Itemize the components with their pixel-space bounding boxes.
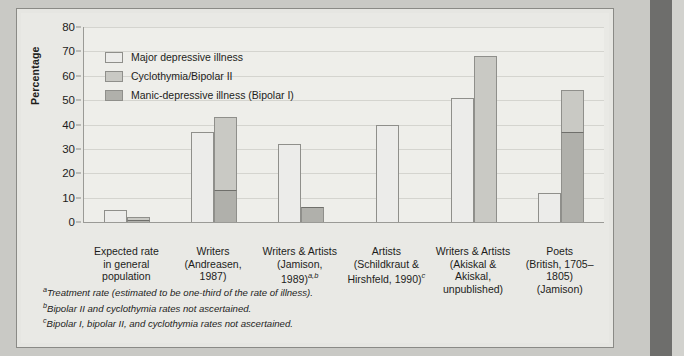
figure-frame: Percentage 01020304050607080 Major depre… xyxy=(16,8,614,348)
y-axis-tick-label: 60 xyxy=(62,70,75,82)
legend-item: Manic-depressive illness (Bipolar I) xyxy=(105,89,294,101)
footnote-marker: a,b xyxy=(308,271,318,280)
bar-major-depressive-illness xyxy=(538,193,561,222)
legend-item-label: Manic-depressive illness (Bipolar I) xyxy=(131,89,294,101)
y-axis-tick-label: 40 xyxy=(62,119,75,131)
x-axis-label-line: (Jamison, xyxy=(257,258,342,271)
legend-item: Cyclothymia/Bipolar II xyxy=(105,70,294,82)
footnote-text: Bipolar I, bipolar II, and cyclothymia r… xyxy=(47,319,293,330)
figure-inner-panel: Percentage 01020304050607080 Major depre… xyxy=(21,13,609,343)
footnote-text: Treatment rate (estimated to be one-thir… xyxy=(47,287,313,298)
y-axis-tick-label: 30 xyxy=(62,143,75,155)
y-axis-tick-label: 20 xyxy=(62,167,75,179)
bar-manic-depressive-illness-bipolar-i xyxy=(301,207,324,222)
y-axis-tick-label: 80 xyxy=(62,21,75,33)
x-axis-label-line: in general xyxy=(84,258,169,271)
page-edge-shadow-band xyxy=(650,0,672,356)
y-axis-tick-label: 0 xyxy=(69,216,75,228)
y-axis-tick-mark xyxy=(76,148,81,149)
y-axis-tick-mark xyxy=(76,173,81,174)
footnote-line: aTreatment rate (estimated to be one-thi… xyxy=(43,284,583,300)
bar-cyclothymia-bipolar-ii xyxy=(561,90,584,222)
bar-cyclothymia-bipolar-ii xyxy=(474,56,497,222)
y-axis-tick-mark xyxy=(76,27,81,28)
x-axis-label-line: Akiskal, xyxy=(431,270,516,283)
y-axis-tick-mark xyxy=(76,51,81,52)
legend-item-label: Major depressive illness xyxy=(131,51,243,63)
y-axis-tick-mark xyxy=(76,124,81,125)
x-axis-label-line: population xyxy=(84,270,169,283)
bar-cyclothymia-bipolar-ii xyxy=(301,207,324,222)
y-axis-tick-mark xyxy=(76,100,81,101)
y-axis-tick-mark xyxy=(76,197,81,198)
x-axis-label-line: Poets xyxy=(517,245,602,258)
bar-manic-depressive-illness-bipolar-i xyxy=(561,132,584,222)
legend-swatch-icon xyxy=(105,52,123,63)
x-axis-label-line: Writers xyxy=(171,245,256,258)
footnote-line: cBipolar I, bipolar II, and cyclothymia … xyxy=(43,315,583,331)
y-axis-label: Percentage xyxy=(29,46,41,105)
bar-cyclothymia-bipolar-ii xyxy=(127,217,150,222)
legend-item: Major depressive illness xyxy=(105,51,294,63)
y-axis-tick-label: 50 xyxy=(62,94,75,106)
bar-major-depressive-illness xyxy=(376,125,399,223)
bar-major-depressive-illness xyxy=(104,210,127,222)
legend-item-label: Cyclothymia/Bipolar II xyxy=(131,70,233,82)
footnote-text: Bipolar II and cyclothymia rates not asc… xyxy=(47,303,251,314)
x-axis-label-line: (Schildkraut & xyxy=(344,258,429,271)
legend-swatch-icon xyxy=(105,90,123,101)
bar-cyclothymia-bipolar-ii xyxy=(214,117,237,222)
bar-group xyxy=(431,27,518,222)
bar-manic-depressive-illness-bipolar-i xyxy=(214,190,237,222)
x-axis-label-line: Artists xyxy=(344,245,429,258)
bar-major-depressive-illness xyxy=(278,144,301,222)
x-axis-label-line: (Akiskal & xyxy=(431,258,516,271)
bar-group xyxy=(344,27,431,222)
x-axis-label-line: 1987) xyxy=(171,270,256,283)
x-axis-label-line: Writers & Artists xyxy=(431,245,516,258)
page-edge-margin xyxy=(672,0,684,356)
bar-major-depressive-illness xyxy=(191,132,214,222)
bar-major-depressive-illness xyxy=(451,98,474,222)
x-axis-label-line: (British, 1705–1805) xyxy=(517,258,602,283)
y-axis-tick-label: 10 xyxy=(62,192,75,204)
y-axis-tick-label: 70 xyxy=(62,45,75,57)
legend-swatch-icon xyxy=(105,71,123,82)
chart-legend: Major depressive illnessCyclothymia/Bipo… xyxy=(105,51,294,101)
footnote-marker: c xyxy=(422,271,426,280)
footnote-line: bBipolar II and cyclothymia rates not as… xyxy=(43,300,583,316)
footnotes: aTreatment rate (estimated to be one-thi… xyxy=(43,284,583,331)
scanned-figure-page: Percentage 01020304050607080 Major depre… xyxy=(0,0,684,356)
plot-wrapper: Percentage 01020304050607080 Major depre… xyxy=(31,27,609,242)
bar-group xyxy=(517,27,604,222)
bar-manic-depressive-illness-bipolar-i xyxy=(127,220,150,222)
x-axis-label-line: Writers & Artists xyxy=(257,245,342,258)
y-axis-ticks: 01020304050607080 xyxy=(47,27,81,222)
x-axis-label-line: (Andreasen, xyxy=(171,258,256,271)
x-axis-label-line: 1989)a,b xyxy=(257,270,342,285)
x-axis-label-line: Expected rate xyxy=(84,245,169,258)
y-axis-tick-mark xyxy=(76,75,81,76)
y-axis-tick-mark xyxy=(76,222,81,223)
x-axis-label-line: Hirshfeld, 1990)c xyxy=(344,270,429,285)
